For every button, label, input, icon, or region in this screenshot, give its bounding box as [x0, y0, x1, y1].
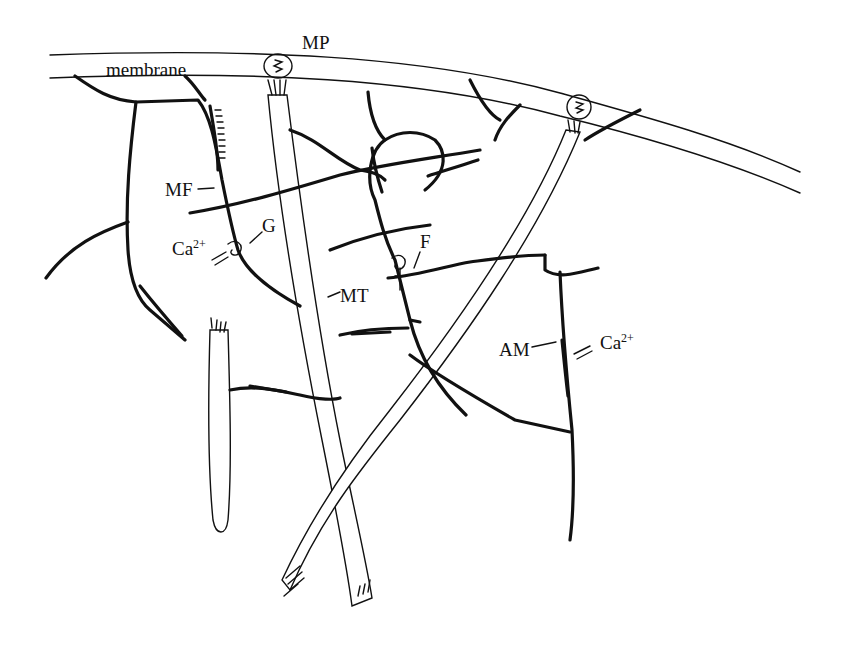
- label-calcium-right: Ca2+: [600, 332, 634, 352]
- label-f: F: [420, 232, 431, 251]
- membrane-protein-left: [264, 54, 292, 95]
- microtubule-right: [282, 130, 580, 590]
- cytoskeleton-diagram: [0, 0, 844, 648]
- label-am: AM: [499, 340, 530, 359]
- label-calcium-left: Ca2+: [172, 238, 206, 258]
- label-membrane: membrane: [106, 60, 186, 79]
- label-mt: MT: [340, 286, 369, 305]
- label-g: G: [262, 216, 276, 235]
- label-mf: MF: [165, 180, 192, 199]
- label-mp: MP: [302, 33, 329, 52]
- microtubule-short: [209, 330, 231, 532]
